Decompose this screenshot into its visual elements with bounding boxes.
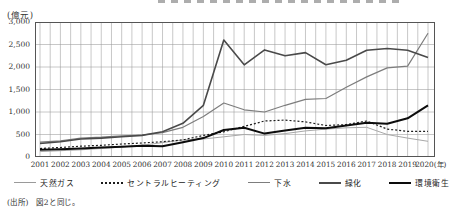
- legend-item-緑化: 緑化: [319, 177, 362, 188]
- x-tick-label: 2005: [112, 160, 131, 169]
- legend-line-marker: [389, 182, 411, 184]
- x-tick-label: 2014: [296, 160, 315, 169]
- legend-item-下水: 下水: [248, 177, 291, 188]
- y-tick-label: 1,000: [9, 108, 30, 116]
- x-tick-label: 2008: [174, 160, 193, 169]
- x-tick-label: 2016: [337, 160, 356, 169]
- legend-label: 下水: [274, 177, 291, 188]
- legend-line-marker: [248, 182, 270, 183]
- y-tick-label: 3,000: [9, 18, 30, 26]
- plot-svg: [35, 22, 435, 157]
- legend-line-marker: [101, 182, 123, 184]
- legend-label: セントラルヒーティング: [127, 177, 221, 188]
- x-tick-label: 2002: [51, 160, 70, 169]
- legend-item-環境衛生: 環境衛生: [389, 177, 449, 188]
- y-tick-label: 1,500: [9, 86, 30, 94]
- legend-label: 天然ガス: [40, 177, 74, 188]
- legend-label: 環境衛生: [415, 177, 449, 188]
- x-tick-label: 2018: [378, 160, 397, 169]
- legend-item-天然ガス: 天然ガス: [14, 177, 74, 188]
- figure-title-cropped: [158, 0, 404, 3]
- x-tick-label: 2013: [276, 160, 295, 169]
- x-tick-label: 2009: [194, 160, 213, 169]
- legend-line-marker: [319, 182, 341, 184]
- x-tick-label: 2001: [31, 160, 50, 169]
- x-tick-label: 2011: [235, 160, 254, 169]
- x-tick-label: 2007: [153, 160, 172, 169]
- x-tick-label: 2004: [92, 160, 111, 169]
- x-tick-label: 2003: [72, 160, 91, 169]
- x-tick-label: 2010: [214, 160, 233, 169]
- y-tick-label: 500: [16, 131, 30, 139]
- y-tick-label: 2,000: [9, 63, 30, 71]
- x-tick-label: 2015: [317, 160, 336, 169]
- chart-legend: 天然ガスセントラルヒーティング下水緑化環境衛生: [0, 177, 463, 188]
- legend-item-セントラルヒーティング: セントラルヒーティング: [101, 177, 221, 188]
- x-tick-label: 2020(年): [415, 160, 446, 169]
- plot-area: [35, 22, 435, 157]
- x-axis-tick-labels: 2001200220032004200520062007200820092010…: [0, 160, 463, 170]
- x-tick-label: 2017: [357, 160, 376, 169]
- legend-line-marker: [14, 182, 36, 183]
- y-tick-label: 2,500: [9, 41, 30, 49]
- x-tick-label: 2019: [398, 160, 417, 169]
- legend-label: 緑化: [345, 177, 362, 188]
- source-note: (出所) 図2と同じ。: [7, 196, 79, 207]
- x-tick-label: 2006: [133, 160, 152, 169]
- x-tick-label: 2012: [255, 160, 274, 169]
